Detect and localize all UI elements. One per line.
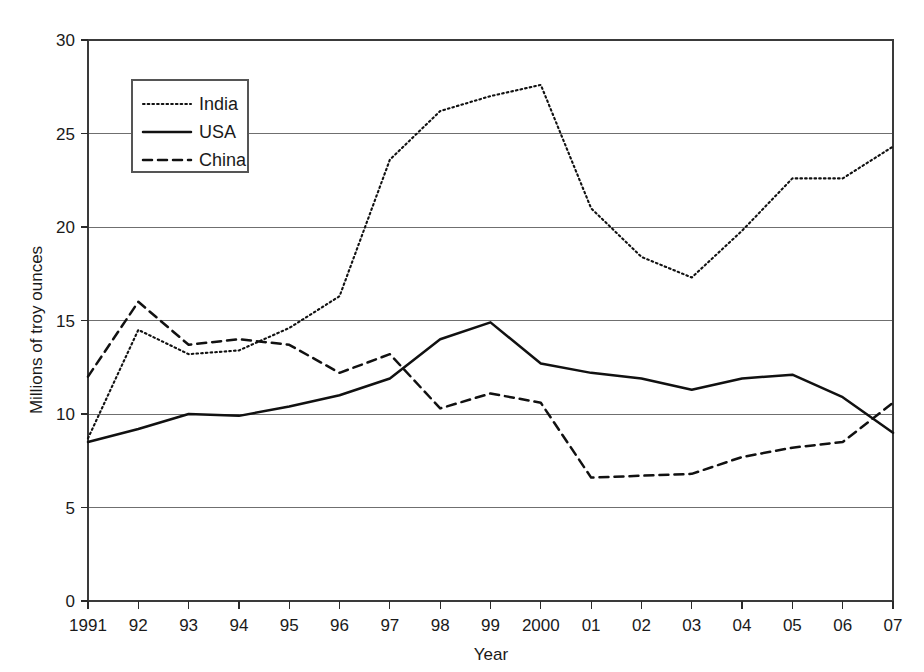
x-tick-label-97: 97 [380,616,399,635]
x-tick-label-94: 94 [229,616,248,635]
x-tick-label-01: 01 [582,616,601,635]
legend-label-usa: USA [199,122,236,142]
x-tick-label-2000: 2000 [522,616,560,635]
y-tick-label-20: 20 [56,218,75,237]
x-tick-label-03: 03 [682,616,701,635]
x-tick-label-04: 04 [733,616,752,635]
line-chart: 051015202530 199192939495969798992000010… [0,0,924,672]
x-axis-title: Year [474,645,509,664]
x-tick-label-95: 95 [280,616,299,635]
legend-label-india: India [199,94,239,114]
y-tick-label-10: 10 [56,405,75,424]
x-tick-label-07: 07 [884,616,903,635]
x-tick-label-99: 99 [481,616,500,635]
x-tick-label-06: 06 [833,616,852,635]
y-tick-label-30: 30 [56,31,75,50]
chart-legend: IndiaUSAChina [132,80,248,172]
x-tick-label-93: 93 [179,616,198,635]
y-tick-label-0: 0 [66,592,75,611]
x-tick-label-05: 05 [783,616,802,635]
x-tick-label-1991: 1991 [69,616,107,635]
x-tick-label-92: 92 [129,616,148,635]
y-tick-label-15: 15 [56,312,75,331]
chart-container: 051015202530 199192939495969798992000010… [0,0,924,672]
y-tick-label-25: 25 [56,125,75,144]
x-tick-label-02: 02 [632,616,651,635]
y-tick-label-5: 5 [66,499,75,518]
y-axis-title: Millions of troy ounces [27,246,46,414]
legend-label-china: China [199,150,247,170]
x-tick-label-96: 96 [330,616,349,635]
x-tick-label-98: 98 [431,616,450,635]
